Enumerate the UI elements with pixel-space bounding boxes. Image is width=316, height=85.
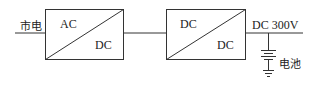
battery-icon xyxy=(261,33,276,77)
input-label: 市电 xyxy=(20,19,42,33)
ac-dc-converter: AC DC xyxy=(46,10,124,60)
dc-dc-converter: DC DC xyxy=(167,10,246,60)
converter2-top-label: DC xyxy=(180,17,197,31)
battery-label: 电池 xyxy=(279,58,301,71)
converter2-bottom-label: DC xyxy=(217,38,234,52)
power-supply-diagram: 市电 AC DC DC DC DC 300V 电池 xyxy=(0,0,316,85)
converter1-top-label: AC xyxy=(60,17,77,31)
converter1-bottom-label: DC xyxy=(95,38,112,52)
converter1-diagonal xyxy=(46,10,124,60)
output-label: DC 300V xyxy=(252,18,299,32)
converter2-diagonal xyxy=(167,10,246,60)
